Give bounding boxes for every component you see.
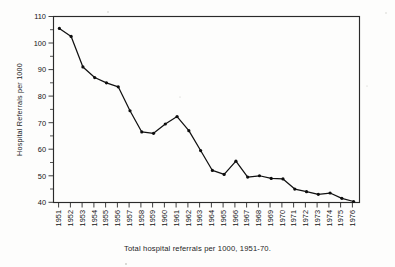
x-tick-label: 1952 bbox=[66, 210, 75, 226]
x-tick-label: 1959 bbox=[148, 210, 157, 226]
data-point bbox=[70, 35, 73, 38]
y-tick-label: 40 bbox=[38, 198, 46, 207]
x-tick-label: 1971 bbox=[289, 210, 298, 226]
data-point bbox=[352, 200, 355, 203]
y-tick-label: 100 bbox=[34, 39, 46, 48]
hospital-referrals-line-chart: 110 100 90 80 70 60 50 40 Hospital Refer… bbox=[0, 0, 395, 267]
x-axis-ticks bbox=[59, 203, 353, 208]
series-line-total-referrals bbox=[59, 28, 353, 201]
data-point bbox=[140, 130, 143, 133]
data-point bbox=[164, 122, 167, 125]
data-point bbox=[175, 115, 178, 118]
data-point bbox=[281, 177, 284, 180]
x-tick-label: 1957 bbox=[125, 210, 134, 226]
y-tick-label: 60 bbox=[38, 145, 46, 154]
data-point bbox=[199, 149, 202, 152]
x-tick-label: 1963 bbox=[195, 210, 204, 226]
x-tick-label: 1953 bbox=[78, 210, 87, 226]
x-tick-label: 1967 bbox=[242, 210, 251, 226]
data-point bbox=[58, 27, 61, 30]
data-point bbox=[305, 190, 308, 193]
data-point bbox=[105, 81, 108, 84]
x-tick-label: 1965 bbox=[219, 210, 228, 226]
data-point bbox=[270, 177, 273, 180]
data-point bbox=[117, 85, 120, 88]
data-point bbox=[234, 160, 237, 163]
data-point bbox=[246, 175, 249, 178]
x-tick-label: 1960 bbox=[160, 210, 169, 226]
data-point bbox=[187, 129, 190, 132]
plot-frame bbox=[54, 17, 360, 203]
data-point bbox=[211, 169, 214, 172]
y-tick-label: 90 bbox=[38, 65, 46, 74]
x-tick-label: 1955 bbox=[101, 210, 110, 226]
x-tick-label: 1962 bbox=[184, 210, 193, 226]
x-tick-label: 1964 bbox=[207, 210, 216, 226]
data-point bbox=[81, 65, 84, 68]
x-tick-label: 1972 bbox=[301, 210, 310, 226]
x-tick-label: 1969 bbox=[266, 210, 275, 226]
x-tick-label: 1976 bbox=[348, 210, 357, 226]
y-tick-label: 70 bbox=[38, 119, 46, 128]
x-tick-label: 1970 bbox=[278, 210, 287, 226]
data-series-group bbox=[58, 27, 355, 203]
x-tick-label: 1966 bbox=[231, 210, 240, 226]
series-markers bbox=[58, 27, 355, 203]
data-point bbox=[317, 193, 320, 196]
x-tick-label: 1973 bbox=[313, 210, 322, 226]
figure-container: 110 100 90 80 70 60 50 40 Hospital Refer… bbox=[0, 0, 395, 267]
x-tick-label: 1956 bbox=[113, 210, 122, 226]
y-axis-title: Hospital Referrals per 1000 bbox=[15, 63, 24, 156]
data-point bbox=[93, 76, 96, 79]
data-point bbox=[258, 174, 261, 177]
y-tick-label: 50 bbox=[38, 172, 46, 181]
x-tick-label: 1968 bbox=[254, 210, 263, 226]
data-point bbox=[152, 132, 155, 135]
x-tick-label: 1975 bbox=[336, 210, 345, 226]
data-point bbox=[340, 197, 343, 200]
y-tick-label: 110 bbox=[34, 12, 46, 21]
x-tick-label: 1961 bbox=[172, 210, 181, 226]
data-point bbox=[128, 109, 131, 112]
x-tick-label: 1954 bbox=[90, 210, 99, 226]
x-tick-label: 1958 bbox=[137, 210, 146, 226]
chart-caption: Total hospital referrals per 1000, 1951-… bbox=[124, 244, 271, 253]
data-point bbox=[328, 191, 331, 194]
y-tick-label: 80 bbox=[38, 92, 46, 101]
x-axis-tick-labels: 1951 1952 1953 1954 1955 1956 1957 1958 … bbox=[54, 210, 357, 226]
x-tick-label: 1951 bbox=[54, 210, 63, 226]
y-axis-tick-labels: 110 100 90 80 70 60 50 40 bbox=[34, 12, 46, 207]
data-point bbox=[223, 173, 226, 176]
x-tick-label: 1974 bbox=[325, 210, 334, 226]
data-point bbox=[293, 187, 296, 190]
